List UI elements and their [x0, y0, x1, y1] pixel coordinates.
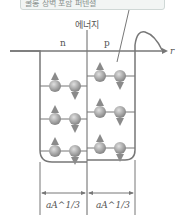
- energy-axis-label: 에너지: [75, 18, 99, 31]
- proton-label: p: [104, 38, 110, 48]
- nuclear-potential-diagram: [0, 0, 182, 215]
- r-axis-label: r: [170, 46, 174, 56]
- right-width-label: aA^1/3: [96, 200, 130, 210]
- neutron-label: n: [60, 38, 66, 48]
- left-width-label: aA^1/3: [46, 200, 80, 210]
